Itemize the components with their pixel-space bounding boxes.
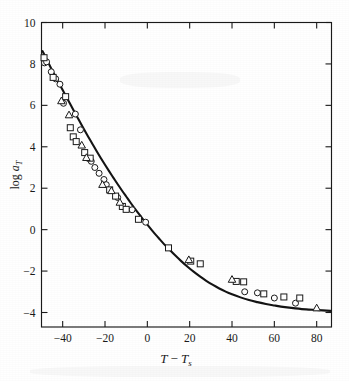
data-point-square [41, 55, 47, 61]
data-point-square [197, 261, 203, 267]
data-point-circle [254, 290, 260, 296]
data-point-square [261, 291, 267, 297]
x-tick-label: 60 [269, 332, 281, 344]
data-point-square [67, 125, 73, 131]
data-point-circle [271, 295, 277, 301]
y-tick-label: 8 [30, 58, 36, 70]
y-tick-label: 2 [30, 182, 36, 194]
svg-text:T−Ts: T−Ts [160, 351, 192, 368]
x-axis-label-sub: s [188, 358, 192, 368]
canvas-background [0, 0, 349, 381]
y-tick-label: 4 [30, 141, 36, 153]
x-axis-label-minus: − [171, 351, 178, 366]
x-axis-label-var1: T [160, 351, 168, 366]
y-tick-label: 6 [30, 99, 36, 111]
data-point-circle [242, 289, 248, 295]
x-tick-label: 40 [226, 332, 238, 344]
data-point-square [241, 279, 247, 285]
x-tick-label: 80 [311, 332, 323, 344]
data-point-circle [72, 111, 78, 117]
x-tick-label: 0 [144, 332, 150, 344]
data-point-square [166, 245, 172, 251]
figure-container: −40−20020406080 1086420−2−4 T−Ts logaT [0, 0, 349, 381]
x-tick-label: 20 [184, 332, 196, 344]
data-point-circle [96, 170, 102, 176]
data-point-square [73, 139, 79, 145]
y-tick-label: 0 [30, 224, 36, 236]
data-point-circle [57, 81, 63, 87]
data-point-circle [143, 219, 149, 225]
y-tick-label: −2 [23, 265, 35, 277]
chart-canvas: −40−20020406080 1086420−2−4 T−Ts logaT [0, 0, 349, 381]
x-axis-label: T−Ts [160, 351, 192, 368]
data-point-circle [77, 127, 83, 133]
data-point-square [50, 74, 56, 80]
x-tick-label: −20 [96, 332, 114, 344]
y-axis-label-log: log [8, 174, 22, 189]
data-point-square [63, 94, 69, 100]
data-point-square [123, 206, 129, 212]
data-point-circle [92, 165, 98, 171]
data-point-circle [129, 207, 135, 213]
data-point-square [135, 216, 141, 222]
data-point-square [281, 294, 287, 300]
y-tick-label: 10 [24, 17, 36, 29]
x-tick-label: −40 [54, 332, 72, 344]
data-point-square [297, 295, 303, 301]
y-tick-label: −4 [23, 307, 35, 319]
